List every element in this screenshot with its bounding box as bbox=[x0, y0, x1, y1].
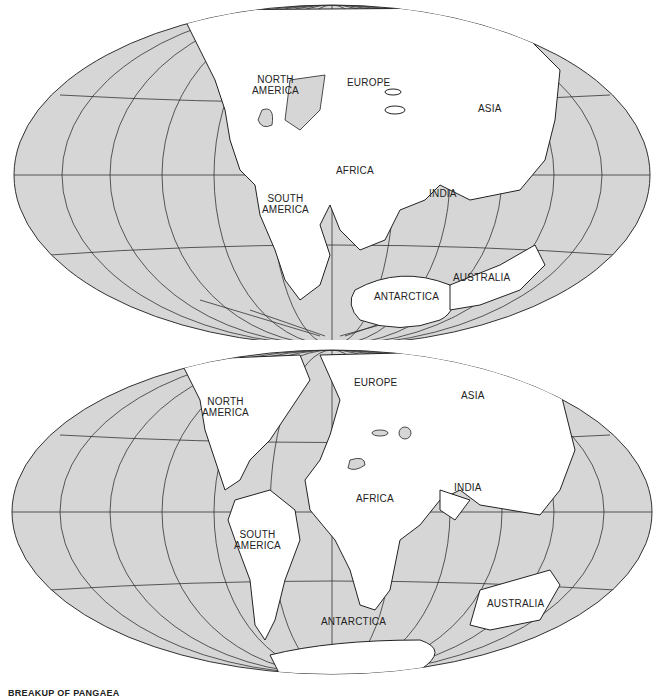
upper-map: NORTH AMERICA EUROPE ASIA AFRICA INDIA S… bbox=[0, 0, 663, 340]
upper-label-antarctica: ANTARCTICA bbox=[374, 291, 439, 302]
lower-label-africa: AFRICA bbox=[356, 493, 394, 504]
upper-label-india: INDIA bbox=[429, 188, 457, 199]
lower-label-antarctica: ANTARCTICA bbox=[321, 616, 386, 627]
lower-label-europe: EUROPE bbox=[354, 377, 397, 388]
lower-label-india: INDIA bbox=[454, 482, 482, 493]
upper-label-australia: AUSTRALIA bbox=[453, 272, 510, 283]
upper-label-africa: AFRICA bbox=[336, 165, 374, 176]
lower-label-australia: AUSTRALIA bbox=[487, 598, 544, 609]
lower-label-south-america: SOUTH AMERICA bbox=[234, 529, 281, 551]
figure-caption: BREAKUP OF PANGAEA bbox=[8, 688, 120, 698]
upper-label-asia: ASIA bbox=[478, 103, 502, 114]
lower-label-north-america: NORTH AMERICA bbox=[202, 396, 249, 418]
upper-label-north-america: NORTH AMERICA bbox=[252, 74, 299, 96]
lower-label-asia: ASIA bbox=[461, 390, 485, 401]
upper-label-europe: EUROPE bbox=[347, 77, 390, 88]
upper-map-graphic bbox=[0, 0, 663, 340]
lower-map-graphic bbox=[0, 340, 663, 685]
upper-label-south-america: SOUTH AMERICA bbox=[262, 193, 309, 215]
lower-map: NORTH AMERICA EUROPE ASIA AFRICA INDIA S… bbox=[0, 340, 663, 685]
